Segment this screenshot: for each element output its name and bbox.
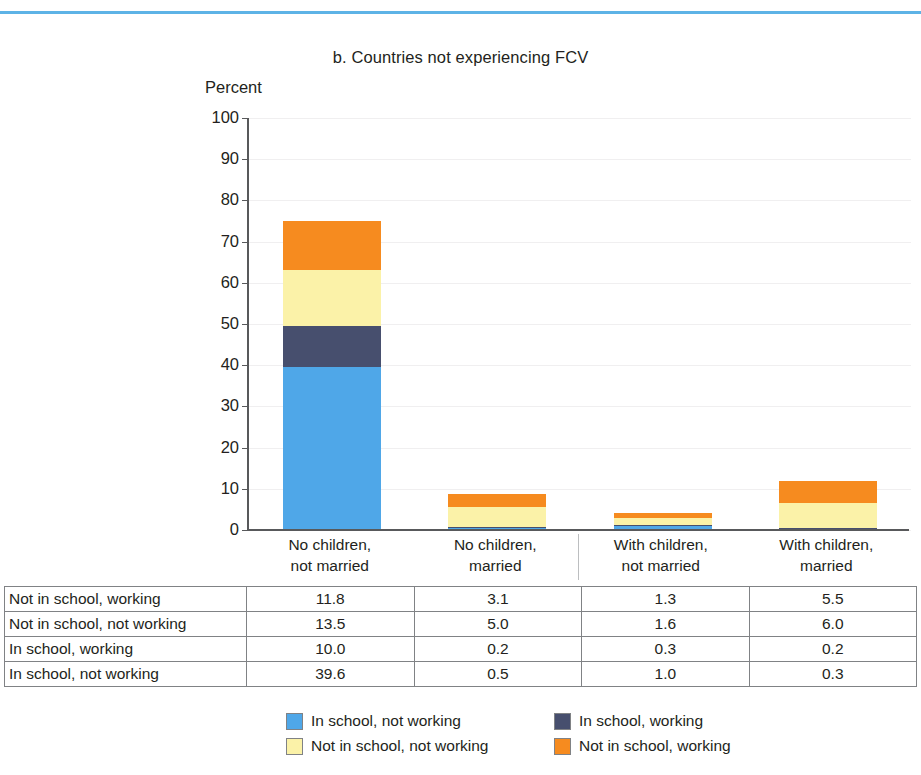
legend-item: Not in school, not working	[286, 737, 546, 755]
bar-segment	[283, 270, 381, 326]
bar-segment	[448, 494, 546, 507]
table-row-label: In school, not working	[5, 662, 247, 687]
table-cell-value: 6.0	[749, 612, 916, 637]
top-divider-rule	[0, 11, 921, 14]
category-label-line1: With children,	[578, 534, 744, 555]
table-cell-value: 0.3	[749, 662, 916, 687]
category-label-line2: not married	[578, 555, 744, 576]
y-axis-tick	[242, 118, 249, 119]
chart-legend: In school, not workingIn school, working…	[286, 712, 846, 755]
y-axis-tick-label: 20	[193, 438, 239, 457]
legend-swatch-icon	[554, 738, 571, 755]
table-row-label: In school, working	[5, 637, 247, 662]
category-label-line2: married	[744, 555, 910, 576]
legend-item: Not in school, working	[554, 737, 814, 755]
y-axis-tick-label: 90	[193, 149, 239, 168]
y-axis-tick	[242, 242, 249, 243]
bar-segment	[779, 503, 877, 528]
bar-segment	[283, 326, 381, 367]
y-axis-tick-label: 30	[193, 396, 239, 415]
data-table: Not in school, working11.83.11.35.5Not i…	[4, 586, 917, 687]
legend-swatch-icon	[286, 738, 303, 755]
category-label-line1: No children,	[247, 534, 413, 555]
table-cell-value: 1.3	[582, 587, 749, 612]
table-row-label: Not in school, working	[5, 587, 247, 612]
table-cell-value: 5.0	[414, 612, 581, 637]
bar-stack	[779, 481, 877, 530]
bar-stack	[614, 513, 712, 530]
bar-stack	[448, 494, 546, 530]
y-axis-tick	[242, 159, 249, 160]
x-axis-category-labels: No children,not marriedNo children,marri…	[247, 534, 909, 580]
legend-label: Not in school, not working	[311, 737, 488, 755]
x-axis-category-label: With children,married	[744, 534, 910, 576]
table-cell-value: 11.8	[246, 587, 414, 612]
y-axis-tick-label: 60	[193, 273, 239, 292]
y-axis-tick	[242, 365, 249, 366]
bar-stack	[283, 221, 381, 530]
category-label-line1: No children,	[413, 534, 579, 555]
x-axis-category-label: With children,not married	[578, 534, 744, 576]
bar-segment	[283, 367, 381, 530]
category-label-line2: married	[413, 555, 579, 576]
legend-label: Not in school, working	[579, 737, 731, 755]
legend-swatch-icon	[554, 713, 571, 730]
y-axis-tick-label: 40	[193, 355, 239, 374]
table-cell-value: 39.6	[246, 662, 414, 687]
table-row: In school, not working39.60.51.00.3	[5, 662, 917, 687]
plot-area	[247, 118, 909, 530]
category-group-divider	[578, 534, 579, 580]
gridline	[249, 159, 911, 160]
x-axis-category-label: No children,married	[413, 534, 579, 576]
bar-segment	[779, 481, 877, 504]
category-label-line1: With children,	[744, 534, 910, 555]
category-label-line2: not married	[247, 555, 413, 576]
y-axis-tick-label: 100	[193, 108, 239, 127]
table-cell-value: 1.0	[582, 662, 749, 687]
chart-title: b. Countries not experiencing FCV	[0, 48, 921, 67]
y-axis-tick	[242, 200, 249, 201]
y-axis-tick-label: 0	[193, 520, 239, 539]
y-axis-tick-label: 50	[193, 314, 239, 333]
y-axis-tick	[242, 489, 249, 490]
y-axis-tick	[242, 406, 249, 407]
table-row: In school, working10.00.20.30.2	[5, 637, 917, 662]
table-row: Not in school, working11.83.11.35.5	[5, 587, 917, 612]
legend-swatch-icon	[286, 713, 303, 730]
y-axis-title: Percent	[205, 78, 262, 97]
table-row-label: Not in school, not working	[5, 612, 247, 637]
y-axis-tick-label: 10	[193, 479, 239, 498]
y-axis-tick-label: 80	[193, 190, 239, 209]
legend-label: In school, not working	[311, 712, 461, 730]
table-cell-value: 0.3	[582, 637, 749, 662]
legend-item: In school, working	[554, 712, 814, 730]
y-axis-tick	[242, 283, 249, 284]
y-axis-tick-label: 70	[193, 232, 239, 251]
table-cell-value: 1.6	[582, 612, 749, 637]
table-cell-value: 0.2	[414, 637, 581, 662]
legend-item: In school, not working	[286, 712, 546, 730]
table-cell-value: 3.1	[414, 587, 581, 612]
y-axis-tick	[242, 448, 249, 449]
gridline	[249, 118, 911, 119]
bar-segment	[614, 518, 712, 525]
x-axis-line	[247, 529, 909, 531]
gridline	[249, 200, 911, 201]
bar-segment	[448, 507, 546, 528]
table-cell-value: 10.0	[246, 637, 414, 662]
table-cell-value: 13.5	[246, 612, 414, 637]
x-axis-category-label: No children,not married	[247, 534, 413, 576]
bar-segment	[283, 221, 381, 270]
table-cell-value: 5.5	[749, 587, 916, 612]
y-axis-tick-labels: 1009080706050403020100	[193, 118, 239, 530]
legend-label: In school, working	[579, 712, 703, 730]
y-axis-tick	[242, 324, 249, 325]
table-row: Not in school, not working13.55.01.66.0	[5, 612, 917, 637]
plot-canvas	[247, 118, 911, 530]
table-cell-value: 0.5	[414, 662, 581, 687]
table-cell-value: 0.2	[749, 637, 916, 662]
